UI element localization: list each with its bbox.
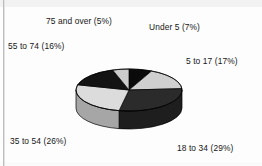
pie-label-under-5: Under 5 (7%) (149, 22, 200, 32)
pie-label-18-to-34: 18 to 34 (29%) (177, 143, 233, 153)
pie-label-35-to-54: 35 to 54 (26%) (10, 136, 66, 146)
pie-label-5-to-17: 5 to 17 (17%) (186, 56, 238, 66)
chart-plot-area: 75 and over (5%) Under 5 (7%) 55 to 74 (… (0, 0, 262, 166)
pie-chart-figure: 75 and over (5%) Under 5 (7%) 55 to 74 (… (0, 0, 262, 166)
pie-label-55-to-74: 55 to 74 (16%) (8, 41, 64, 51)
pie-3d-graphic (68, 34, 190, 158)
pie-label-75-and-over: 75 and over (5%) (46, 16, 112, 26)
